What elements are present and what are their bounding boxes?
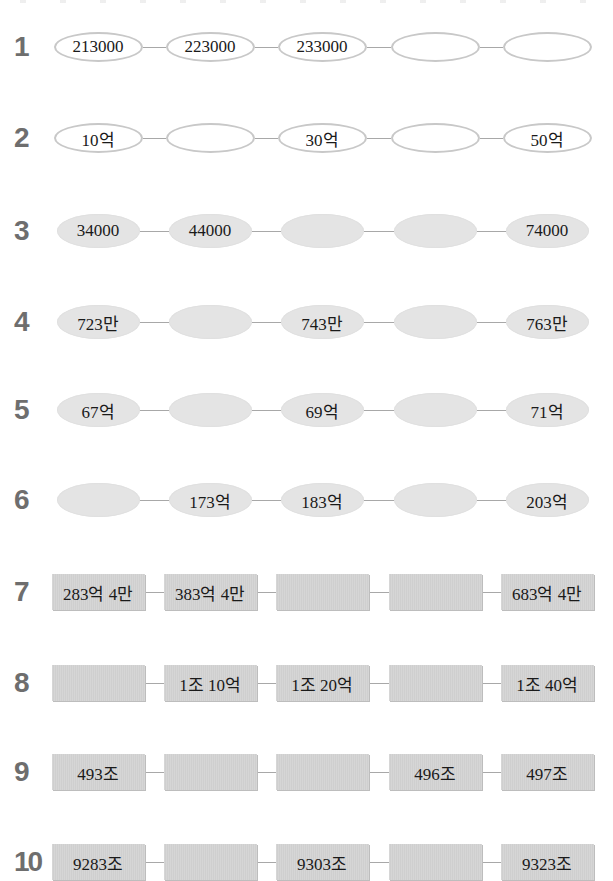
problem-number: 7 — [14, 572, 50, 612]
given-value: 9303조 — [276, 844, 369, 880]
answer-blank[interactable] — [394, 214, 477, 248]
answer-blank[interactable] — [389, 844, 482, 880]
connector-line — [482, 683, 501, 684]
answer-blank[interactable] — [389, 665, 482, 701]
answer-blank[interactable] — [389, 574, 482, 610]
given-value: 743만 — [281, 305, 364, 339]
given-value: 67억 — [57, 393, 140, 427]
answer-blank[interactable] — [394, 483, 477, 517]
problem-number: 4 — [14, 302, 50, 342]
answer-blank[interactable] — [281, 214, 364, 248]
connector-line — [369, 683, 389, 684]
given-value: 763만 — [506, 305, 589, 339]
problem-number: 6 — [14, 480, 50, 520]
connector-line — [145, 862, 164, 863]
given-value: 50억 — [503, 123, 592, 153]
problem-number: 8 — [14, 663, 50, 703]
connector-line — [364, 410, 394, 411]
given-value: 173억 — [169, 483, 252, 517]
given-value: 203억 — [506, 483, 589, 517]
connector-line — [143, 47, 166, 48]
connector-line — [477, 231, 506, 232]
problem-number: 3 — [14, 211, 50, 251]
connector-line — [252, 500, 281, 501]
answer-blank[interactable] — [164, 754, 257, 790]
answer-blank[interactable] — [276, 574, 369, 610]
connector-line — [477, 410, 506, 411]
connector-line — [367, 138, 391, 139]
given-value: 1조 10억 — [164, 665, 257, 701]
answer-blank[interactable] — [169, 305, 252, 339]
answer-blank[interactable] — [391, 123, 480, 153]
sequence-row-1: 1213000223000233000 — [0, 27, 613, 67]
connector-line — [367, 47, 391, 48]
given-value: 213000 — [54, 32, 143, 62]
given-value: 723만 — [57, 305, 140, 339]
connector-line — [140, 410, 169, 411]
problem-number: 9 — [14, 752, 50, 792]
connector-line — [140, 500, 169, 501]
connector-line — [480, 138, 503, 139]
connector-line — [255, 138, 278, 139]
connector-line — [255, 47, 278, 48]
connector-line — [145, 683, 164, 684]
given-value: 9283조 — [52, 844, 145, 880]
answer-blank[interactable] — [394, 393, 477, 427]
sequence-row-6: 6173억183억203억 — [0, 480, 613, 520]
connector-line — [482, 592, 501, 593]
connector-line — [364, 500, 394, 501]
connector-line — [257, 772, 276, 773]
given-value: 74000 — [506, 214, 589, 248]
connector-line — [145, 772, 164, 773]
given-value: 383억 4만 — [164, 574, 257, 610]
answer-blank[interactable] — [52, 665, 145, 701]
given-value: 1조 40억 — [501, 665, 594, 701]
given-value: 223000 — [166, 32, 255, 62]
given-value: 10억 — [54, 123, 143, 153]
given-value: 30억 — [278, 123, 367, 153]
connector-line — [482, 862, 501, 863]
sequence-row-9: 9493조496조497조 — [0, 752, 613, 792]
given-value: 34000 — [57, 214, 140, 248]
connector-line — [477, 322, 506, 323]
connector-line — [257, 862, 276, 863]
connector-line — [364, 231, 394, 232]
sequence-row-8: 81조 10억1조 20억1조 40억 — [0, 663, 613, 703]
connector-line — [145, 592, 164, 593]
connector-line — [477, 500, 506, 501]
given-value: 9323조 — [501, 844, 594, 880]
connector-line — [257, 683, 276, 684]
given-value: 493조 — [52, 754, 145, 790]
connector-line — [369, 592, 389, 593]
cropped-header-strip — [20, 0, 600, 3]
problem-number: 10 — [14, 842, 50, 881]
answer-blank[interactable] — [276, 754, 369, 790]
connector-line — [369, 862, 389, 863]
sequence-row-7: 7283억 4만383억 4만683억 4만 — [0, 572, 613, 612]
given-value: 683억 4만 — [501, 574, 594, 610]
connector-line — [140, 231, 169, 232]
problem-number: 1 — [14, 27, 50, 67]
connector-line — [364, 322, 394, 323]
given-value: 233000 — [278, 32, 367, 62]
answer-blank[interactable] — [169, 393, 252, 427]
connector-line — [482, 772, 501, 773]
given-value: 497조 — [501, 754, 594, 790]
given-value: 1조 20억 — [276, 665, 369, 701]
connector-line — [257, 592, 276, 593]
answer-blank[interactable] — [394, 305, 477, 339]
given-value: 283억 4만 — [52, 574, 145, 610]
given-value: 69억 — [281, 393, 364, 427]
connector-line — [369, 772, 389, 773]
problem-number: 5 — [14, 390, 50, 430]
sequence-row-2: 210억30억50억 — [0, 118, 613, 158]
connector-line — [480, 47, 503, 48]
sequence-row-4: 4723만743만763만 — [0, 302, 613, 342]
sequence-row-10: 109283조9303조9323조 — [0, 842, 613, 881]
answer-blank[interactable] — [57, 483, 140, 517]
connector-line — [140, 322, 169, 323]
answer-blank[interactable] — [166, 123, 255, 153]
answer-blank[interactable] — [391, 32, 480, 62]
answer-blank[interactable] — [503, 32, 592, 62]
answer-blank[interactable] — [164, 844, 257, 880]
